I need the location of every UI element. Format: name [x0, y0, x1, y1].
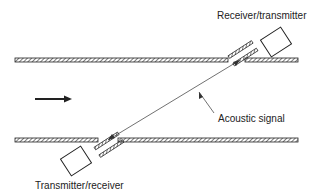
top-transducer-label: Receiver/transmitter [217, 10, 306, 21]
flow-direction-arrow [35, 96, 72, 103]
acoustic-signal-label: Acoustic signal [218, 113, 285, 124]
acoustic-signal-path [108, 60, 240, 140]
bottom-transducer-label: Transmitter/receiver [35, 180, 124, 191]
signal-leader-arrow [199, 92, 214, 113]
flowmeter-diagram [0, 0, 316, 196]
diagram-canvas: Receiver/transmitter Acoustic signal Tra… [0, 0, 316, 196]
top-pipe-wall [15, 58, 298, 62]
bottom-pipe-wall [15, 138, 298, 142]
